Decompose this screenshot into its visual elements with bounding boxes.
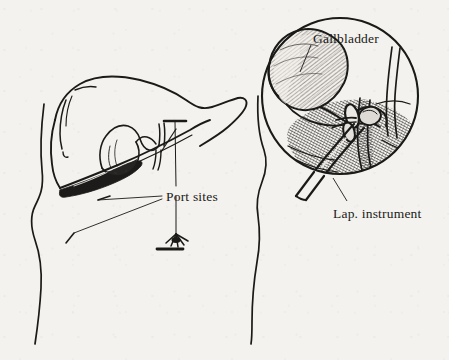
liver-left-lateral-contour	[51, 120, 60, 188]
lap-instrument-shaft-external	[296, 172, 324, 200]
liver-surface-fold-2	[66, 96, 72, 126]
liver-surface-notch	[75, 87, 96, 90]
liver-superior-contour	[55, 77, 238, 120]
torso-liver-panel	[32, 77, 267, 344]
medical-illustration-figure: Gallbladder Port sites Lap. instrument	[0, 0, 449, 360]
port-sites-leader-3	[66, 233, 74, 243]
common-duct-line-1	[153, 150, 156, 169]
port-sites-leader-2	[74, 199, 162, 233]
torso-left-contour	[32, 104, 44, 344]
port-site-lower-hub	[172, 237, 181, 243]
port-sites-label: Port sites	[166, 189, 218, 205]
torso-right-contour	[251, 96, 266, 344]
lap-instrument-leader-line	[333, 178, 347, 201]
illustration-canvas	[0, 0, 449, 360]
port-site-upper-tick	[161, 129, 176, 152]
liver-surface-fold-3	[63, 152, 68, 157]
gallbladder-in-situ-fold	[109, 146, 111, 168]
cystic-duct-line-1	[159, 124, 160, 145]
liver-surface-fold-1	[60, 100, 66, 149]
lap-instrument-label: Lap. instrument	[333, 206, 421, 222]
gallbladder-label: Gallbladder	[313, 31, 379, 47]
gallbladder-in-situ-fold-2	[115, 140, 117, 166]
cystic-duct-line-2	[164, 123, 165, 146]
